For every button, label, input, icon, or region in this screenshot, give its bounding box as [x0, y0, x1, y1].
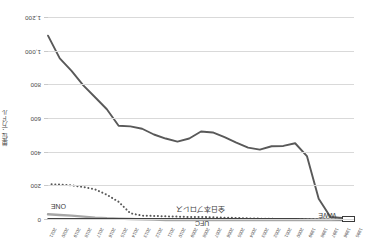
x-axis-tick-label: 2015: [119, 227, 128, 238]
x-axis-tick-label: 1998: [319, 227, 328, 238]
x-axis-tick-label: 2003: [260, 227, 269, 238]
y-axis-tick-label: 1,200: [25, 15, 41, 22]
y-axis-tick-label: 200: [30, 183, 41, 190]
x-axis-tick-label: 2011: [166, 227, 175, 238]
y-axis-tick-label: 1,000: [25, 49, 41, 56]
y-axis-tick-mark: [44, 152, 48, 153]
x-axis-tick-label: 1995: [355, 227, 364, 238]
x-axis-tick-label: 2020: [60, 227, 69, 238]
y-axis-title: 単位：万ドル: [2, 110, 14, 146]
x-axis-tick-label: 2019: [72, 227, 81, 238]
plot-area: [48, 18, 354, 220]
x-axis-tick-label: 2021: [49, 227, 58, 238]
series-label-all-japan-pro-wrestling: 全日本プロレス: [176, 205, 225, 215]
series-label-ufc: UFC: [195, 220, 209, 227]
y-axis-tick-mark: [44, 17, 48, 18]
y-axis-tick-label: 600: [30, 116, 41, 123]
gridline: [48, 152, 354, 153]
x-axis-tick-label: 2009: [190, 227, 199, 238]
x-axis-tick-label: 2000: [296, 227, 305, 238]
series-label-wwe: WWE: [318, 212, 336, 219]
series-label-one: ONE: [51, 203, 66, 210]
x-axis-tick-label: 2016: [107, 227, 116, 238]
gridline: [48, 84, 354, 85]
x-axis-tick-label: 2002: [272, 227, 281, 238]
series-line-WWE: [48, 36, 354, 219]
x-axis-tick-label: 1996: [343, 227, 352, 238]
x-axis-tick-label: 1999: [307, 227, 316, 238]
x-axis-tick-label: 2017: [96, 227, 105, 238]
y-axis-tick-label: 0: [37, 217, 41, 224]
chart-figure: 1995199619971998199920002001200220032004…: [0, 0, 376, 238]
y-axis-tick-mark: [44, 219, 48, 220]
x-axis-tick-label: 2004: [249, 227, 258, 238]
x-axis-tick-label: 2005: [237, 227, 246, 238]
y-axis-tick-mark: [44, 84, 48, 85]
y-axis-tick-mark: [44, 118, 48, 119]
x-axis-tick-label: 2012: [154, 227, 163, 238]
gridline: [48, 17, 354, 18]
x-axis-tick-label: 2018: [84, 227, 93, 238]
x-axis-tick-label: 2010: [178, 227, 187, 238]
x-axis-tick-label: 2007: [213, 227, 222, 238]
x-axis-tick-label: 2006: [225, 227, 234, 238]
y-axis-tick-label: 800: [30, 82, 41, 89]
x-axis-tick-label: 1997: [331, 227, 340, 238]
x-axis-tick-label: 2001: [284, 227, 293, 238]
y-axis-tick-mark: [44, 51, 48, 52]
x-axis-tick-label: 2013: [143, 227, 152, 238]
x-axis-tick-label: 2014: [131, 227, 140, 238]
gridline: [48, 185, 354, 186]
x-axis-tick-label: 2008: [202, 227, 211, 238]
gridline: [48, 51, 354, 52]
y-axis-tick-label: 400: [30, 150, 41, 157]
gridline: [48, 118, 354, 119]
series-lines: [48, 18, 354, 220]
y-axis-tick-mark: [44, 185, 48, 186]
